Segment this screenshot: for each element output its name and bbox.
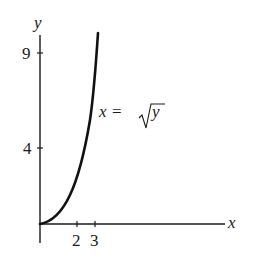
- xtick-3-label: 3: [90, 232, 99, 249]
- curve-label-rhs: y: [152, 103, 160, 120]
- curve-label-lhs: x: [99, 103, 107, 120]
- graph: [0, 0, 255, 264]
- y-axis-label: y: [34, 14, 42, 31]
- ytick-4-label: 4: [23, 140, 32, 157]
- curve-sqrt: [40, 33, 98, 224]
- x-axis-label: x: [228, 214, 236, 231]
- xtick-2-label: 2: [72, 232, 81, 249]
- curve-label-eq: =: [112, 103, 122, 120]
- ytick-9-label: 9: [22, 45, 31, 62]
